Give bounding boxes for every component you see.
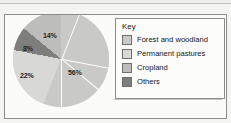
legend-item-others: Others [122,76,224,88]
page-top-rule [0,3,231,4]
legend-label: Permanent pastures [137,50,205,58]
pie-separator [61,59,62,107]
pie-label-cropland: 14% [43,32,56,39]
legend-item-permanent-pastures: Permanent pastures [122,48,224,60]
legend-swatch-icon [122,49,132,59]
legend-label: Forest and woodland [137,36,208,44]
legend-item-cropland: Cropland [122,62,224,74]
legend-swatch-icon [122,63,132,73]
page-background: 56% 22% 8% 14% Key Forest and woodland P… [0,0,231,123]
legend-box: Key Forest and woodland Permanent pastur… [115,18,225,99]
legend-title: Key [122,23,224,31]
pie-circle [13,15,109,107]
pie-label-permanent-pastures: 22% [20,72,33,79]
pie-chart: 56% 22% 8% 14% [5,15,123,118]
legend-underline-artifact [114,99,222,100]
pie-label-others: 8% [23,45,33,52]
pie-label-forest-and-woodland: 56% [68,69,81,76]
legend-swatch-icon [122,77,132,87]
legend-item-forest-and-woodland: Forest and woodland [122,34,224,46]
legend-label: Others [137,78,160,86]
legend-label: Cropland [137,64,168,72]
figure-frame: 56% 22% 8% 14% Key Forest and woodland P… [4,14,227,119]
legend-swatch-icon [122,35,132,45]
